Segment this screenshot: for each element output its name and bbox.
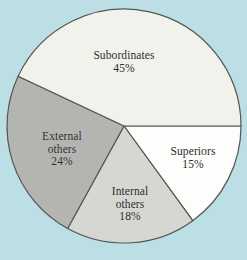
pie-label-internal-others-line1: Internal xyxy=(92,185,168,198)
pie-label-internal-others-value: 18% xyxy=(92,210,168,223)
pie-label-superiors-name: Superiors xyxy=(152,145,234,158)
pie-label-superiors-value: 15% xyxy=(152,158,234,171)
pie-label-superiors: Superiors 15% xyxy=(152,145,234,170)
pie-label-subordinates: Subordinates 45% xyxy=(63,49,185,74)
pie-chart-figure: Subordinates 45% Superiors 15% Internal … xyxy=(0,0,247,260)
figure-caption xyxy=(0,251,247,260)
pie-label-internal-others: Internal others 18% xyxy=(92,185,168,223)
pie-label-external-others: External others 24% xyxy=(22,130,102,168)
pie-label-external-others-value: 24% xyxy=(22,155,102,168)
pie-label-external-others-line1: External xyxy=(22,130,102,143)
pie-label-subordinates-value: 45% xyxy=(63,62,185,75)
pie-label-internal-others-line2: others xyxy=(92,198,168,211)
pie-label-external-others-line2: others xyxy=(22,143,102,156)
pie-label-subordinates-name: Subordinates xyxy=(63,49,185,62)
